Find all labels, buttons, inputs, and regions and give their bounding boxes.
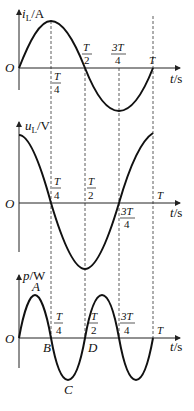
current-plot: iL/A O t/s T 4 T 2 3T 4 T (5, 6, 182, 111)
tick-t-half: T 2 (82, 41, 92, 66)
svg-text:T: T (88, 175, 95, 187)
tick-t-full: T (157, 189, 164, 201)
svg-text:3T: 3T (111, 41, 125, 53)
point-d-label: D (87, 340, 98, 355)
tick-3t-quarter: 3T 4 (111, 41, 126, 66)
tick-t-quarter: T 4 (52, 70, 61, 95)
x-axis-label: t/s (170, 339, 182, 354)
origin-label: O (5, 331, 15, 346)
y-axis-label: uL/V (25, 118, 51, 135)
tick-t-full: T (149, 54, 156, 66)
svg-text:3T: 3T (120, 310, 134, 322)
point-b-label: B (43, 340, 51, 355)
tick-3t-quarter: 3T 4 (120, 310, 135, 336)
tick-t-quarter: T 4 (52, 175, 61, 201)
svg-text:4: 4 (54, 189, 60, 201)
svg-text:2: 2 (91, 324, 97, 336)
tick-t-half: T 2 (89, 310, 98, 336)
svg-text:T: T (54, 175, 61, 187)
svg-text:T: T (91, 310, 98, 322)
svg-text:T: T (83, 41, 90, 53)
svg-text:T: T (54, 70, 61, 82)
svg-text:2: 2 (88, 189, 94, 201)
svg-text:2: 2 (84, 54, 90, 66)
tick-3t-quarter: 3T 4 (120, 205, 135, 230)
svg-text:4: 4 (124, 324, 130, 336)
origin-label: O (5, 196, 15, 211)
voltage-plot: uL/V O t/s T 4 T 2 3T 4 T (5, 118, 182, 269)
svg-text:4: 4 (54, 83, 60, 95)
point-a-label: A (31, 279, 40, 294)
power-plot: p/W O t/s A B C D T 4 T 2 3T 4 T (5, 268, 182, 397)
x-axis-label: t/s (170, 71, 182, 86)
tick-t-full: T (157, 324, 164, 336)
current-curve (19, 21, 153, 111)
svg-text:4: 4 (124, 218, 130, 230)
voltage-curve (19, 133, 153, 269)
svg-text:3T: 3T (120, 205, 134, 217)
origin-label: O (5, 60, 15, 75)
tick-t-half: T 2 (87, 175, 96, 201)
tick-t-quarter: T 4 (54, 310, 63, 336)
x-axis-label: t/s (170, 205, 182, 220)
inductor-waveforms-diagram: iL/A O t/s T 4 T 2 3T 4 T uL/V O t/s T (0, 0, 194, 411)
svg-text:T: T (56, 310, 63, 322)
svg-text:4: 4 (115, 54, 121, 66)
y-axis-label: iL/A (22, 6, 45, 23)
svg-text:4: 4 (56, 324, 62, 336)
dashed-guides (51, 16, 153, 338)
point-c-label: C (64, 382, 73, 397)
